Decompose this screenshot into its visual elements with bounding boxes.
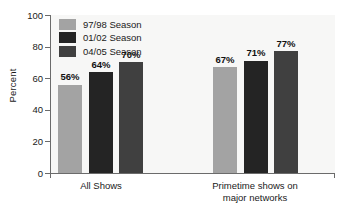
bar-all-shows-9798	[58, 85, 82, 174]
bar-chart: Percent 100 80 60 40 20 0 56% 64% 70% 67…	[0, 0, 345, 218]
x-axis-tick-end	[334, 173, 335, 178]
y-axis-line	[50, 15, 51, 174]
legend-swatch-icon	[59, 32, 76, 43]
y-axis-tick	[45, 110, 50, 111]
y-axis-tick	[45, 78, 50, 79]
legend-swatch-icon	[59, 19, 76, 30]
y-axis-tick	[45, 173, 50, 174]
y-axis-tick-label: 0	[17, 169, 43, 179]
x-axis-group-label-line1: All Shows	[60, 180, 142, 192]
x-axis-tick-start	[50, 173, 51, 178]
y-axis-tick-label: 20	[17, 137, 43, 147]
y-axis-tick	[45, 15, 50, 16]
x-axis-group-label-line2: major networks	[195, 192, 315, 204]
y-axis-tick-label: 100	[17, 11, 43, 21]
legend-item-0102: 01/02 Season	[59, 32, 142, 45]
legend-item-9798: 97/98 Season	[59, 18, 142, 31]
legend-item-label: 97/98 Season	[83, 20, 142, 30]
y-axis-title: Percent	[7, 51, 18, 121]
bar-primetime-9798	[213, 67, 237, 173]
y-axis-tick-label: 40	[17, 105, 43, 115]
bar-value-label: 71%	[238, 48, 274, 58]
legend-item-label: 01/02 Season	[83, 33, 142, 43]
bar-all-shows-0405	[119, 62, 143, 173]
legend-item-0405: 04/05 Season	[59, 45, 142, 58]
bar-value-label: 56%	[52, 72, 88, 82]
y-axis-tick	[45, 141, 50, 142]
x-axis-group-label-all-shows: All Shows	[60, 180, 142, 192]
x-axis-group-label-primetime: Primetime shows on major networks	[195, 180, 315, 204]
bar-value-label: 64%	[83, 60, 119, 70]
legend-item-label: 04/05 Season	[83, 47, 142, 57]
y-axis-tick-label: 80	[17, 42, 43, 52]
x-axis-line	[50, 173, 335, 174]
bar-primetime-0405	[274, 51, 298, 173]
bar-all-shows-0102	[89, 72, 113, 173]
bar-value-label: 77%	[268, 39, 304, 49]
y-axis-tick	[45, 47, 50, 48]
legend-swatch-icon	[59, 46, 76, 57]
bar-primetime-0102	[244, 61, 268, 173]
legend: 97/98 Season 01/02 Season 04/05 Season	[59, 18, 142, 59]
x-axis-group-label-line1: Primetime shows on	[195, 180, 315, 192]
y-axis-tick-label: 60	[17, 74, 43, 84]
